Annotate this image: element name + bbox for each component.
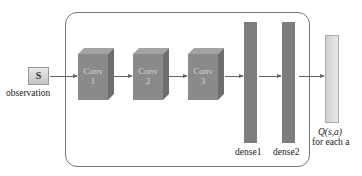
conv-3-index: 3 xyxy=(201,76,206,86)
conv-layer-1: Conv1 xyxy=(78,48,114,100)
conv-3-name: Conv xyxy=(193,66,213,76)
conv-1-name: Conv xyxy=(83,66,103,76)
arrow-conv2-to-conv3 xyxy=(169,76,187,77)
conv-1-index: 1 xyxy=(91,76,96,86)
input-label: observation xyxy=(6,88,50,98)
conv-layer-2: Conv2 xyxy=(133,48,169,100)
conv-layer-3: Conv3 xyxy=(188,48,224,100)
arrow-input-to-conv1 xyxy=(50,76,77,77)
output-layer xyxy=(325,35,339,123)
arrow-conv1-to-conv2 xyxy=(114,76,132,77)
dense2-label: dense2 xyxy=(273,147,299,157)
arrow-dense1-to-dense2 xyxy=(259,76,281,77)
dense-layer-2 xyxy=(282,22,295,143)
dense1-label: dense1 xyxy=(235,147,261,157)
input-state-box: S xyxy=(28,67,49,85)
conv-2-name: Conv xyxy=(138,66,158,76)
dense-layer-1 xyxy=(244,22,257,143)
arrow-conv3-to-dense1 xyxy=(225,76,243,77)
conv-2-index: 2 xyxy=(146,76,151,86)
output-q-label: Q(s,a) xyxy=(318,127,342,137)
output-sub-label: for each a xyxy=(312,137,349,147)
arrow-dense2-to-output xyxy=(299,76,324,77)
